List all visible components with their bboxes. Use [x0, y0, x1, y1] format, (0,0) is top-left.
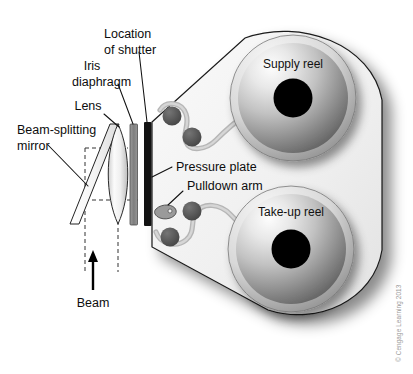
iris-diaphragm-label-line1: Iris: [84, 59, 101, 73]
location-of-shutter-label-line2: of shutter: [104, 43, 156, 57]
take-up-reel-label: Take-up reel: [258, 205, 324, 219]
camera-cross-section-diagram: Supply reel Take-up reel Beam Location o…: [0, 0, 413, 374]
shutter-pressure-plate: [144, 122, 152, 226]
roller-lower-left: [161, 228, 180, 247]
copyright-credit: © Cengage Learning 2013: [395, 284, 403, 362]
diagram-canvas: Supply reel Take-up reel Beam Location o…: [0, 0, 413, 374]
pressure-plate-label: Pressure plate: [176, 160, 257, 174]
roller-upper-right: [183, 128, 202, 147]
roller-upper-left: [163, 107, 182, 126]
location-of-shutter-label-line1: Location: [104, 27, 151, 41]
pulldown-arm: [155, 205, 177, 219]
leader-iris-diaphragm: [118, 84, 133, 124]
beam-label: Beam: [77, 296, 110, 310]
beam-arrow: [88, 250, 98, 290]
beam-splitting-mirror-label-line2: mirror: [17, 139, 50, 153]
take-up-reel-hub: [272, 230, 311, 269]
supply-reel-hub: [274, 79, 313, 118]
iris-diaphragm: [130, 124, 138, 225]
supply-reel-label: Supply reel: [263, 57, 323, 71]
beam-splitting-mirror-label-line1: Beam-splitting: [17, 123, 96, 137]
supply-reel: [230, 35, 356, 161]
iris-diaphragm-label-line2: diaphragm: [72, 75, 131, 89]
leader-beam-splitting-mirror: [48, 145, 88, 186]
roller-lower-right: [183, 202, 202, 221]
lens-label: Lens: [74, 99, 101, 113]
leader-location-of-shutter: [139, 52, 147, 122]
pulldown-arm-label: Pulldown arm: [187, 179, 263, 193]
